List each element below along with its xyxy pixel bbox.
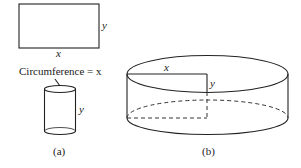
circumference-pointer-line bbox=[55, 79, 60, 86]
large-cylinder-radius-label: x bbox=[163, 61, 169, 73]
rectangle-shape bbox=[19, 4, 99, 48]
small-cylinder-bottom-back-arc bbox=[45, 128, 76, 131]
panel-a-rectangle: x y bbox=[19, 4, 107, 59]
panel-b-cylinder: x y bbox=[127, 56, 288, 135]
diagram-svg: x y Circumference = x y (a) bbox=[0, 0, 301, 168]
circumference-caption: Circumference = x bbox=[19, 65, 102, 77]
panel-a-label: (a) bbox=[53, 145, 66, 158]
rectangle-width-label: x bbox=[55, 47, 61, 59]
small-cylinder-top-ellipse bbox=[45, 86, 76, 93]
figure-canvas: x y Circumference = x y (a) bbox=[0, 0, 301, 168]
panel-a-cylinder: y bbox=[45, 79, 85, 134]
large-cylinder-bottom-front-arc bbox=[127, 118, 288, 135]
large-cylinder-height-label: y bbox=[209, 77, 215, 89]
small-cylinder-bottom-front-arc bbox=[45, 131, 76, 134]
panel-b-label: (b) bbox=[202, 145, 215, 158]
small-cylinder-height-label: y bbox=[78, 103, 84, 115]
rectangle-height-label: y bbox=[101, 19, 107, 31]
